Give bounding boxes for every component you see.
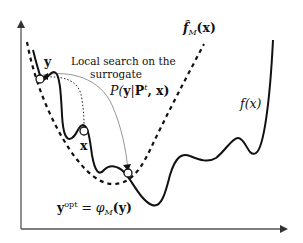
surrogate-label: f̂M(x) [183,22,216,37]
point-x-label: x [80,140,87,153]
point-y-label: y [44,56,51,69]
probability-label: P(y|Pt, x) [110,84,169,98]
diagram-canvas [0,0,303,243]
local-search-label: Local search on the surrogate [71,56,161,79]
local-search-path [43,77,84,127]
point-y-marker [36,75,44,83]
point-x-marker [80,127,88,135]
yopt-label: yopt = φM(y) [57,201,132,217]
true-function-label: f(x) [240,98,261,111]
point-yopt-marker [124,169,132,177]
